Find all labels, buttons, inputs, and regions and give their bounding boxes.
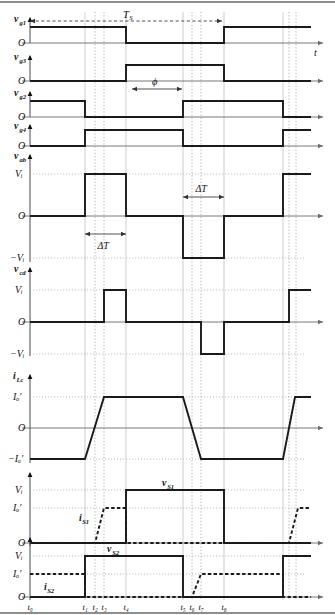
svg-text:t₆: t₆	[189, 602, 194, 612]
svg-text:t₀: t₀	[27, 602, 32, 612]
svg-text:t₃: t₃	[101, 602, 106, 612]
level-label-vcd-Vi: Vᵢ	[15, 284, 23, 295]
svg-text:g1: g1	[18, 19, 26, 26]
svg-text:t₅: t₅	[180, 602, 185, 612]
svg-text:t₂: t₂	[92, 602, 97, 612]
svg-text:g4: g4	[18, 126, 26, 133]
svg-text:i: i	[13, 370, 16, 381]
level-label-vab-negVi: −Vᵢ	[10, 252, 25, 263]
time-tick-t6: t₆	[189, 602, 194, 612]
svg-text:g3: g3	[18, 57, 26, 64]
waveform-canvas: vg1OTStvg3Ovg2Oϕvg4OvabVᵢO−VᵢΔTΔTvcdVᵢO−…	[0, 0, 335, 615]
level-label-iLc-O: O	[18, 422, 25, 433]
zero-label-vg4: O	[18, 140, 25, 151]
level-label-vS2-O: O	[18, 591, 25, 602]
level-label-iLc-Io: Iₒ′	[12, 391, 22, 402]
time-tick-t0: t₀	[27, 602, 32, 612]
level-label-vS2-Io: Iₒ′	[12, 568, 22, 579]
svg-text:S1: S1	[82, 518, 89, 525]
level-label-vcd-O: O	[18, 316, 25, 327]
zero-label-vg3: O	[18, 75, 25, 86]
svg-text:ab: ab	[19, 156, 26, 163]
time-tick-t7: t₇	[198, 602, 203, 612]
time-tick-t2: t₂	[92, 602, 97, 612]
period-label-sub: S	[129, 14, 133, 22]
time-tick-t3: t₃	[101, 602, 106, 612]
svg-text:Lc: Lc	[16, 376, 24, 383]
svg-text:S2: S2	[47, 587, 55, 594]
time-axis-label: t	[314, 47, 317, 58]
deadtime-label-1: ΔT	[97, 240, 111, 251]
svg-text:v: v	[14, 13, 19, 24]
phase-label: ϕ	[152, 76, 158, 87]
svg-text:g2: g2	[18, 93, 26, 100]
zero-label-vg1: O	[18, 37, 25, 48]
svg-text:t₄: t₄	[123, 602, 128, 612]
svg-text:S2: S2	[112, 549, 120, 556]
deadtime-label-2: ΔT	[195, 183, 209, 194]
svg-text:v: v	[14, 120, 19, 131]
level-label-iLc-negIo: −Iₒ′	[8, 453, 24, 464]
svg-text:v: v	[14, 87, 19, 98]
zero-label-vg2: O	[18, 111, 25, 122]
level-label-vcd-negVi: −Vᵢ	[10, 348, 25, 359]
svg-text:v: v	[14, 263, 19, 274]
time-tick-t5: t₅	[180, 602, 185, 612]
level-label-vS2-Vi: Vᵢ	[15, 550, 23, 561]
svg-text:S1: S1	[167, 483, 174, 490]
time-tick-t1: t₁	[82, 602, 87, 612]
svg-text:v: v	[14, 51, 19, 62]
svg-text:t₈: t₈	[221, 602, 226, 612]
level-label-vS1-Io: Iₒ′	[12, 502, 22, 513]
time-tick-t8: t₈	[221, 602, 226, 612]
level-label-vab-O: O	[18, 210, 25, 221]
waveform-figure: vg1OTStvg3Ovg2Oϕvg4OvabVᵢO−VᵢΔTΔTvcdVᵢO−…	[0, 0, 335, 615]
level-label-vS1-O: O	[18, 537, 25, 548]
level-label-vab-Vi: Vᵢ	[15, 168, 23, 179]
level-label-vS1-Vi: Vᵢ	[15, 484, 23, 495]
svg-text:t₇: t₇	[198, 602, 203, 612]
canvas-background	[0, 0, 335, 615]
svg-text:cd: cd	[19, 269, 26, 276]
time-tick-t4: t₄	[123, 602, 128, 612]
svg-text:v: v	[14, 150, 19, 161]
svg-text:t₁: t₁	[82, 602, 87, 612]
